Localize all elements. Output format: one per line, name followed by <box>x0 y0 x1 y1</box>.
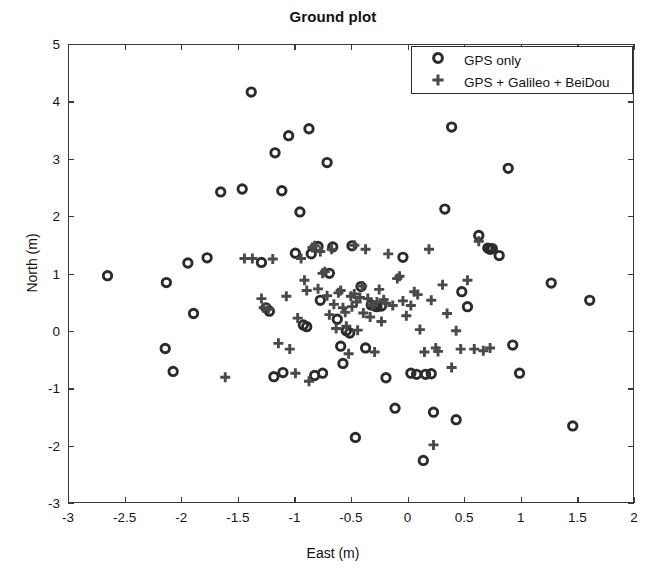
x-tick-mark <box>238 497 239 503</box>
x-tick-mark <box>634 497 635 503</box>
x-tick-mark <box>634 44 635 50</box>
y-tick-mark <box>68 446 74 447</box>
x-tick-mark <box>408 497 409 503</box>
data-point-multignss <box>302 286 312 296</box>
y-tick-mark <box>68 44 74 45</box>
data-point-multignss <box>329 299 339 309</box>
data-point-gps-only <box>382 374 390 382</box>
data-point-multignss <box>426 295 436 305</box>
y-tick-label: -1 <box>34 381 60 396</box>
data-point-multignss <box>239 253 249 263</box>
data-point-gps-only <box>279 368 287 376</box>
y-tick-mark <box>68 159 74 160</box>
x-axis-title: East (m) <box>0 545 666 561</box>
data-point-gps-only <box>495 251 503 259</box>
data-point-multignss <box>285 344 295 354</box>
x-tick-mark <box>125 497 126 503</box>
data-point-gps-only <box>161 344 169 352</box>
data-point-gps-only <box>238 185 246 193</box>
data-point-gps-only <box>504 164 512 172</box>
y-tick-mark <box>628 503 634 504</box>
x-tick-label: 1 <box>517 510 525 525</box>
data-point-gps-only <box>441 205 449 213</box>
data-point-gps-only <box>351 433 359 441</box>
y-tick-mark <box>68 101 74 102</box>
data-point-gps-only <box>427 370 435 378</box>
y-tick-mark <box>628 101 634 102</box>
plus-marker-icon <box>412 72 464 92</box>
data-point-multignss <box>419 347 429 357</box>
data-point-multignss <box>281 291 291 301</box>
x-tick-label: -0.5 <box>339 510 362 525</box>
y-tick-mark <box>68 216 74 217</box>
ground-plot-figure: Ground plot -3-2.5-2-1.5-1-0.500.511.52 … <box>0 0 666 582</box>
data-point-gps-only <box>323 158 331 166</box>
x-tick-mark <box>238 44 239 50</box>
x-tick-mark <box>294 497 295 503</box>
x-tick-mark <box>351 44 352 50</box>
data-point-multignss <box>268 254 278 264</box>
chart-title: Ground plot <box>0 8 666 25</box>
data-point-gps-only <box>184 259 192 267</box>
data-point-gps-only <box>509 341 517 349</box>
x-tick-label: 0 <box>404 510 412 525</box>
y-tick-label: 5 <box>34 37 60 52</box>
data-point-gps-only <box>271 149 279 157</box>
data-point-gps-only <box>103 271 111 279</box>
data-point-gps-only <box>586 296 594 304</box>
y-tick-mark <box>68 503 74 504</box>
data-point-gps-only <box>203 254 211 262</box>
data-point-multignss <box>383 249 393 259</box>
data-point-gps-only <box>547 279 555 287</box>
y-tick-mark <box>68 388 74 389</box>
data-point-gps-only <box>429 408 437 416</box>
legend-label-gps-only: GPS only <box>464 53 521 68</box>
data-point-gps-only <box>412 370 420 378</box>
x-tick-label: -2 <box>175 510 187 525</box>
x-tick-label: 0.5 <box>455 510 474 525</box>
x-tick-label: -1.5 <box>226 510 249 525</box>
data-point-multignss <box>462 275 472 285</box>
x-tick-mark <box>125 44 126 50</box>
y-tick-mark <box>628 388 634 389</box>
data-point-gps-only <box>270 372 278 380</box>
y-tick-mark <box>628 446 634 447</box>
y-tick-mark <box>628 274 634 275</box>
y-axis-title: North (m) <box>24 183 40 343</box>
x-tick-mark <box>294 44 295 50</box>
data-point-gps-only <box>463 302 471 310</box>
y-tick-label: 3 <box>34 151 60 166</box>
data-point-gps-only <box>189 309 197 317</box>
data-point-gps-only <box>333 315 341 323</box>
data-point-multignss <box>469 344 479 354</box>
x-tick-mark <box>181 497 182 503</box>
y-tick-mark <box>628 159 634 160</box>
data-point-multignss <box>331 323 341 333</box>
legend-item-gps-only: GPS only <box>412 49 632 71</box>
y-tick-mark <box>628 331 634 332</box>
x-tick-mark <box>464 497 465 503</box>
data-point-gps-only <box>452 415 460 423</box>
data-point-multignss <box>415 325 425 335</box>
data-point-gps-only <box>458 288 466 296</box>
data-point-multignss <box>429 440 439 450</box>
data-point-gps-only <box>361 344 369 352</box>
x-tick-mark <box>181 44 182 50</box>
y-tick-mark <box>68 274 74 275</box>
data-point-multignss <box>290 368 300 378</box>
x-tick-label: 2 <box>630 510 638 525</box>
x-tick-mark <box>408 44 409 50</box>
data-point-multignss <box>438 280 448 290</box>
series-gps-only <box>103 88 594 465</box>
data-point-gps-only <box>291 249 299 257</box>
data-point-gps-only <box>257 258 265 266</box>
data-point-multignss <box>447 362 457 372</box>
plot-area <box>68 44 634 503</box>
data-point-gps-only <box>447 123 455 131</box>
y-tick-label: -2 <box>34 438 60 453</box>
data-point-gps-only <box>216 188 224 196</box>
x-tick-label: 1.5 <box>568 510 587 525</box>
data-point-multignss <box>256 294 266 304</box>
data-point-multignss <box>374 284 384 294</box>
x-tick-label: -1 <box>288 510 300 525</box>
